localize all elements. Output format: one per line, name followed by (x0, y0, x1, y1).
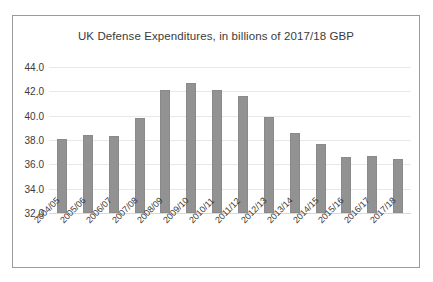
bar (212, 90, 222, 213)
y-axis-tick-label: 42.0 (25, 86, 44, 97)
gridline (49, 116, 411, 117)
bar (186, 83, 196, 213)
chart-title: UK Defense Expenditures, in billions of … (13, 30, 419, 42)
y-axis-tick-label: 44.0 (25, 62, 44, 73)
bar (160, 90, 170, 213)
gridline (49, 164, 411, 165)
plot-area: 32.034.036.038.040.042.044.0 2004/052005… (49, 67, 411, 213)
chart-frame: UK Defense Expenditures, in billions of … (12, 15, 420, 268)
y-axis-tick-label: 40.0 (25, 110, 44, 121)
gridline (49, 91, 411, 92)
bar (238, 96, 248, 213)
y-axis-tick-label: 38.0 (25, 135, 44, 146)
y-axis-tick-label: 34.0 (25, 183, 44, 194)
gridline (49, 140, 411, 141)
gridline (49, 189, 411, 190)
y-axis-tick-label: 36.0 (25, 159, 44, 170)
gridline (49, 67, 411, 68)
